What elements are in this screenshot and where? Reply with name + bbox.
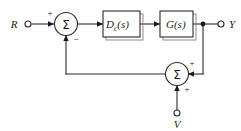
arrowhead-plant-input — [154, 21, 160, 26]
arrowhead-compensator-input — [97, 21, 103, 26]
output-terminal — [218, 21, 224, 27]
noise-input-label: V — [174, 118, 182, 130]
plant-label-main: G — [166, 18, 174, 30]
error-summer-sigma-glyph: Σ — [62, 18, 70, 32]
compensator-label-main: D — [105, 18, 114, 30]
noise-input-terminal — [174, 110, 180, 116]
arrowhead-summer-reference-input — [48, 21, 54, 26]
reference-input-label: R — [10, 18, 18, 30]
output-branch-node — [201, 22, 206, 27]
plant-block-label: G(s) — [166, 18, 186, 31]
noise-summer-noise-sign: + — [184, 84, 189, 94]
reference-input-terminal — [25, 21, 31, 27]
noise-summer-output-sign: + — [189, 58, 194, 68]
error-summer-feedback-sign: − — [73, 34, 78, 44]
noise-summer-sigma-glyph: Σ — [173, 68, 181, 82]
output-label: Y — [229, 18, 237, 30]
compensator-label-argument: (s) — [117, 18, 129, 31]
block-diagram-figure: R Y V Dc(s) G(s) Σ Σ + − + + — [0, 0, 241, 131]
diagram-canvas: R Y V Dc(s) G(s) Σ Σ + − + + — [0, 0, 241, 131]
error-summer-reference-sign: + — [47, 8, 52, 18]
plant-label-argument: (s) — [174, 18, 186, 31]
